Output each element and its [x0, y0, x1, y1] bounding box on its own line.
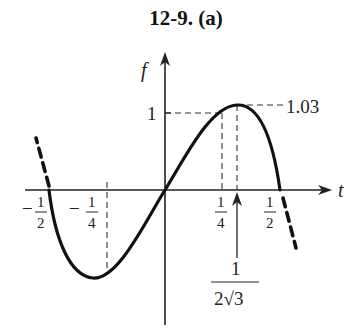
svg-text:−: − [69, 198, 80, 219]
svg-text:2: 2 [37, 215, 45, 231]
x-tick-neg-half: − 1 2 [22, 194, 47, 231]
x-tick-quarter: 1 4 [215, 194, 227, 231]
svg-text:4: 4 [217, 215, 225, 231]
svg-text:1: 1 [231, 258, 241, 279]
x-tick-neg-quarter: − 1 4 [69, 194, 98, 231]
svg-text:−: − [22, 198, 33, 219]
svg-text:4: 4 [88, 215, 96, 231]
x-tick-half: 1 2 [264, 194, 276, 231]
svg-text:1: 1 [88, 194, 96, 210]
y-tick-label-1: 1 [147, 103, 157, 124]
x-axis-label: t [338, 179, 344, 201]
svg-text:1: 1 [266, 194, 274, 210]
svg-text:2√3: 2√3 [214, 288, 243, 309]
plot-area: t f 1 1.03 − 1 2 − 1 4 1 4 1 2 [0, 0, 364, 329]
curve-extension-left [36, 138, 49, 186]
curve-extension-right [283, 198, 296, 248]
y-axis-label: f [141, 59, 149, 82]
max-value-label: 1.03 [286, 96, 319, 117]
svg-text:1: 1 [37, 194, 45, 210]
svg-text:2: 2 [266, 215, 274, 231]
max-location-label: 1 2√3 [211, 258, 259, 309]
svg-text:1: 1 [217, 194, 225, 210]
